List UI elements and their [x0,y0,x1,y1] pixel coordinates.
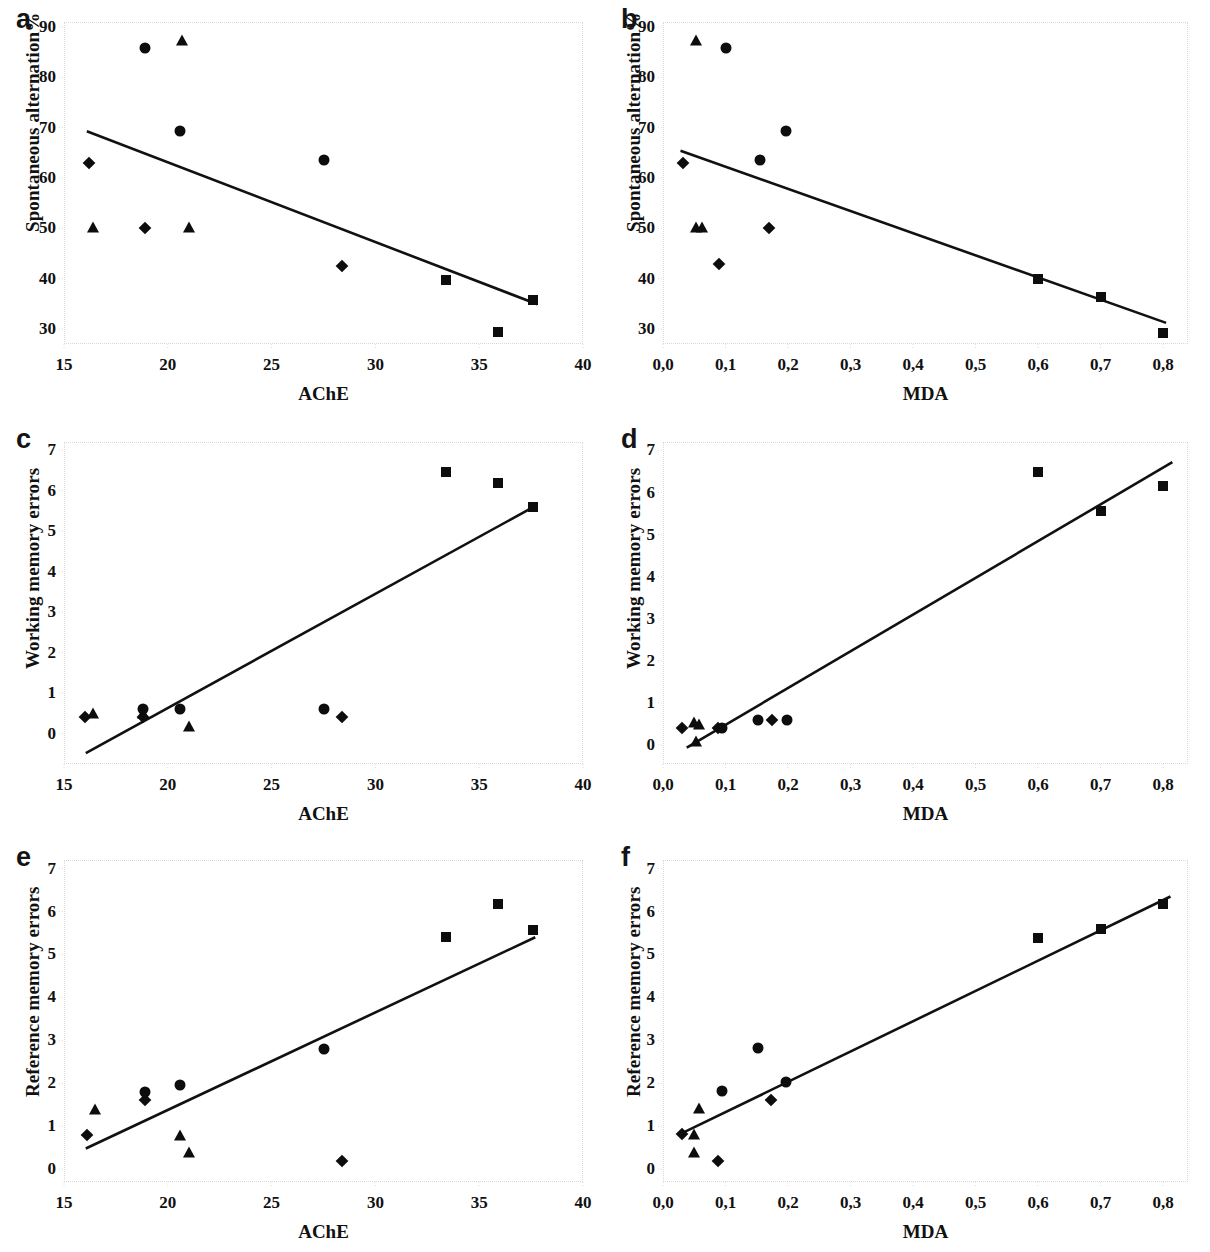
regression-line [681,151,1167,323]
y-tick-label: 0 [16,1160,56,1177]
data-point-circle [717,723,728,734]
tick-marks [658,869,1163,1187]
regression-line [687,462,1173,747]
data-point-square [528,925,538,935]
data-point-circle [318,155,329,166]
x-tick-label: 40 [553,1194,613,1211]
panel-a: a30405060708090152025303540Spontaneous a… [0,0,605,417]
regression-line [86,506,535,753]
data-point-circle [780,126,791,137]
x-tick-label: 0,2 [758,776,818,793]
x-tick-label: 0,5 [946,1194,1006,1211]
x-tick-label: 0,7 [1071,776,1131,793]
x-tick-label: 0,1 [696,1194,756,1211]
figure-panel-grid: a30405060708090152025303540Spontaneous a… [0,0,1210,1252]
data-point-square [1096,924,1106,934]
data-point-triangle [87,222,99,233]
data-point-square [1033,274,1043,284]
data-point-square [1033,933,1043,943]
data-point-square [1158,481,1168,491]
panel-e: e01234567152025303540Reference memory er… [0,835,605,1252]
regression-line [86,937,535,1148]
x-tick-label: 0,0 [633,776,693,793]
y-tick-label: 40 [615,270,655,287]
trendline-layer-e [0,835,605,1252]
data-point-triangle [693,1103,705,1114]
data-point-triangle [174,1129,186,1140]
tick-marks [59,27,583,349]
tick-marks [59,450,583,769]
panel-c: c01234567152025303540Working memory erro… [0,417,605,834]
x-tick-label: 25 [242,356,302,373]
y-tick-label: 7 [615,441,655,458]
x-tick-label: 0,0 [633,1194,693,1211]
x-axis-title: AChE [64,803,583,825]
x-tick-label: 0,3 [821,1194,881,1211]
tick-marks [59,869,583,1187]
data-point-square [1158,899,1168,909]
data-point-triangle [176,35,188,46]
x-tick-label: 0,6 [1008,776,1068,793]
data-point-circle [781,714,792,725]
x-tick-label: 40 [553,356,613,373]
x-tick-label: 0,8 [1133,776,1193,793]
y-tick-label: 0 [615,736,655,753]
y-axis-title: Spontaneous alternation% [22,13,44,232]
x-tick-label: 0,6 [1008,1194,1068,1211]
x-tick-label: 30 [345,776,405,793]
y-tick-label: 30 [615,320,655,337]
data-point-circle [137,704,148,715]
panel-f: f012345670,00,10,20,30,40,50,60,70,8Refe… [605,835,1210,1252]
data-point-square [528,295,538,305]
data-point-square [441,932,451,942]
data-point-circle [175,126,186,137]
x-tick-label: 0,1 [696,356,756,373]
y-axis-title: Spontaneous alternation% [623,13,645,232]
data-point-triangle [690,735,702,746]
x-tick-label: 35 [449,776,509,793]
data-point-triangle [87,708,99,719]
data-point-circle [175,704,186,715]
x-tick-label: 0,2 [758,1194,818,1211]
data-point-square [441,467,451,477]
x-axis-title: AChE [64,1221,583,1243]
x-tick-label: 20 [138,1194,198,1211]
data-point-triangle [688,1128,700,1139]
data-point-square [441,275,451,285]
y-tick-label: 0 [615,1160,655,1177]
x-tick-label: 0,5 [946,356,1006,373]
x-tick-label: 15 [34,776,94,793]
x-tick-label: 0,4 [883,1194,943,1211]
x-tick-label: 25 [242,1194,302,1211]
y-axis-title: Reference memory errors [22,887,44,1097]
data-point-triangle [696,222,708,233]
data-point-triangle [183,720,195,731]
data-point-circle [139,43,150,54]
data-point-triangle [693,719,705,730]
y-tick-label: 40 [16,270,56,287]
data-point-square [1096,506,1106,516]
y-tick-label: 7 [615,860,655,877]
data-point-circle [717,1085,728,1096]
trendline-layer-c [0,417,605,834]
data-point-circle [175,1079,186,1090]
y-axis-title: Reference memory errors [623,887,645,1097]
x-tick-label: 35 [449,356,509,373]
x-axis-title: MDA [663,803,1188,825]
data-point-triangle [183,1146,195,1157]
data-point-triangle [89,1104,101,1115]
data-point-circle [781,1077,792,1088]
y-tick-label: 1 [615,1117,655,1134]
x-tick-label: 15 [34,356,94,373]
trendline-layer-a [0,0,605,417]
y-tick-label: 1 [615,694,655,711]
data-point-circle [753,714,764,725]
data-point-square [1033,467,1043,477]
x-tick-label: 0,6 [1008,356,1068,373]
x-tick-label: 0,4 [883,776,943,793]
data-point-square [528,502,538,512]
y-axis-title: Working memory errors [22,468,44,669]
regression-line [87,131,537,304]
x-tick-label: 20 [138,356,198,373]
x-tick-label: 40 [553,776,613,793]
